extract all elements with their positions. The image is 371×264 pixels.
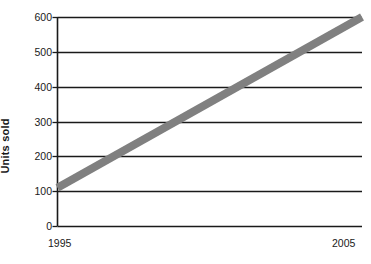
gridlines: [58, 18, 363, 227]
plot-area: [0, 0, 371, 264]
data-series-line: [58, 17, 363, 188]
line-chart: Units sold 6005004003002001000 1995 2005: [0, 0, 371, 264]
